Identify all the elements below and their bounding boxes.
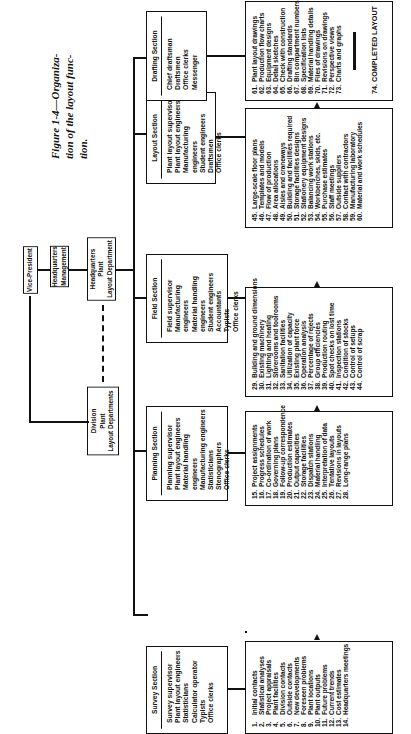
header-task-connector (228, 688, 245, 690)
staff-list: Survey supervisor Plant layout engineers… (162, 647, 215, 733)
task-item: 56.Staff meetings (328, 109, 335, 221)
branch-line (133, 58, 135, 135)
task-item: 57.Outside suppliers (335, 109, 342, 221)
task-item: 27.Revisions in layouts (335, 412, 342, 499)
task-item: 41.Inspection stations (335, 288, 342, 390)
vp-division-connector (29, 421, 89, 423)
staff-item: Office clerks (207, 647, 215, 723)
flow-arrow-icon (314, 634, 320, 640)
task-item: 37.Percentage of rejects (307, 288, 314, 390)
box-label: Vice-President (26, 248, 35, 292)
task-item: 15.Project assignments (251, 412, 258, 499)
vice-president-box: Vice-President (23, 246, 38, 294)
task-item: 47.Flow of production (265, 109, 272, 221)
task-item: 65.Check with construction (279, 2, 286, 94)
task-item: 61.Plant layout drawings (251, 2, 258, 94)
task-item: 46.Templates and models (258, 109, 265, 221)
connector-line (38, 269, 50, 271)
task-item: 26.Tentative layouts (328, 412, 335, 499)
connector-line (69, 269, 87, 271)
field-tasks-box: 29.Building and ground dimensions 30.Exi… (245, 287, 393, 397)
task-item: 10.Plant outputs (314, 642, 321, 727)
header-task-connector (216, 136, 245, 138)
completion-bar (353, 32, 356, 70)
caption-line: Figure 1-4—Organiza- (48, 54, 62, 159)
header-task-connector (207, 55, 245, 57)
branch-line (133, 614, 148, 616)
task-item: 44.Control of scrap (356, 288, 363, 390)
drafting-tasks-box: 61.Plant layout drawings 62.Production f… (245, 1, 393, 101)
staff-item: Survey supervisor (166, 647, 174, 723)
spacer (245, 631, 247, 633)
staff-item: Material handling engineers (182, 407, 198, 490)
field-section-box: Field Section Field supervisor Manufactu… (146, 254, 228, 343)
staff-item: Student engineers (207, 255, 215, 332)
staff-item: Draftsmen (174, 12, 182, 90)
task-item: 60.Material and work schedules (356, 109, 363, 221)
staff-item: Office clerks (182, 12, 190, 90)
task-item: 58.Contact with contractors (342, 109, 349, 221)
staff-item: Manufacturing engineers (174, 255, 190, 332)
task-item: 38.Group efficiencies (314, 288, 321, 390)
box-label: Layout Department (106, 240, 115, 298)
task-item: 54.Workbenches, skids, etc. (314, 109, 321, 221)
task-item: 4.Plant facilities (272, 642, 279, 727)
task-item: 30.Existing machinery (258, 288, 265, 390)
org-chart-figure: Figure 1-4—Organiza- tion of the layout … (0, 0, 411, 734)
staff-item: Plant layout engineers (174, 407, 182, 490)
task-item: 20.Production estimates (286, 412, 293, 499)
task-item: 34.Utilization of capacity (286, 288, 293, 390)
section-title: Survey Section (147, 651, 162, 728)
task-item: 29.Building and ground dimensions (251, 288, 258, 390)
task-item: 70.Files of drawings (314, 2, 321, 94)
task-item: 23.Dispatch stations (307, 412, 314, 499)
flow-arrow-icon (314, 102, 320, 108)
staff-item: Statisticians (207, 407, 215, 490)
task-item: 43.Control of setups (349, 288, 356, 390)
task-item: 36.Operation analysis (300, 288, 307, 390)
task-item: 7.New developments (293, 642, 300, 727)
task-item: 12.Current trends (328, 642, 335, 727)
task-item: 31.Lighting and heating (265, 288, 272, 390)
staff-item: Material handling engineers (191, 255, 207, 332)
task-item: 25.Interpretation of data (321, 412, 328, 499)
task-item: 33.Sanitation facilities (279, 288, 286, 390)
task-item: 42.Condition of stocks (342, 288, 349, 390)
main-spine (133, 134, 135, 616)
staff-list: Chief draftsman Draftsmen Office clerks … (162, 12, 199, 100)
task-item: 72.Perspective views (328, 2, 335, 94)
staff-item: Plant layout engineers (174, 647, 182, 723)
staff-item: Office clerks (232, 255, 240, 332)
staff-item: Chief draftsman (166, 12, 174, 90)
task-item: 17.Co-ordination of work (265, 412, 272, 499)
box-label: Management (60, 247, 69, 286)
task-item: 9.Plant locations (307, 642, 314, 727)
section-title: Field Section (147, 259, 162, 337)
staff-item: Stenographers (215, 407, 223, 490)
section-title: Planning Section (147, 412, 162, 496)
task-item: 55.Purchase estimates (321, 109, 328, 221)
staff-item: Office clerks (215, 93, 223, 173)
survey-section-box: Survey Section Survey supervisor Plant l… (146, 646, 228, 734)
task-item: 18.Governing plans (272, 412, 279, 499)
task-item: 59.Manufacturing laboratory (349, 109, 356, 221)
task-list: 1.Initial contacts 2.Statistical analyse… (246, 642, 349, 733)
staff-item: Manufacturing engineers (182, 93, 198, 173)
task-item: 51.Storage facilities designs (293, 109, 300, 221)
staff-list: Plant layout supervisor Plant layout eng… (162, 93, 223, 183)
staff-item: Typists (223, 255, 231, 332)
task-item: 63.Equipment designs (265, 2, 272, 94)
flow-arrow-icon (314, 281, 320, 287)
staff-item: Accountants (215, 255, 223, 332)
task-item: 28.Long-range plans (342, 412, 349, 499)
task-item: 48.Area allocations (272, 109, 279, 221)
task-item: 5.Division contacts (279, 642, 286, 727)
planning-section-box: Planning Section Planning supervisor Pla… (146, 406, 228, 501)
task-item: 50.Building and facilities required (286, 109, 293, 221)
section-title: Layout Section (147, 98, 162, 179)
task-item: 22.Storage facilities (300, 412, 307, 499)
hq-management-box: Headquarters Management (50, 246, 69, 287)
task-item: 6.Outside contacts (286, 642, 293, 727)
hq-plant-layout-box: Headquarters Plant Layout Department (87, 237, 116, 300)
completed-layout-label: 74. COMPLETED LAYOUT (370, 6, 379, 94)
